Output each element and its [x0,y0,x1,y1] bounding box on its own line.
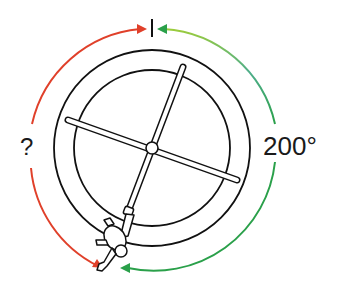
bar-vertical [128,67,183,212]
known-angle-label: 200° [263,131,317,162]
hanging-figure [96,206,134,271]
arrowhead-icon [137,24,147,34]
diagram-canvas: ? 200° [0,0,349,290]
arrowhead-icon [157,24,167,34]
hub [146,142,158,154]
unknown-angle-label: ? [20,133,33,161]
arrowhead-icon [120,263,130,273]
